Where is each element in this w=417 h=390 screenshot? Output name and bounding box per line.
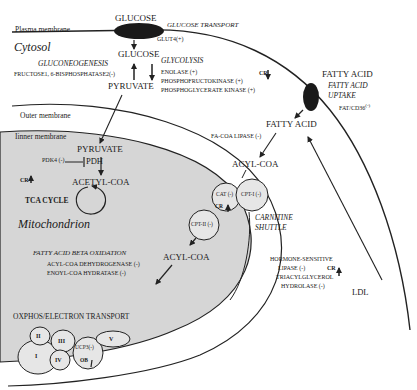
complex-i-label: I — [35, 353, 37, 359]
glycolysis-title: GLYCOLYSIS — [161, 57, 203, 65]
fatty-acid-external: FATTY ACID — [322, 70, 373, 79]
glucose-internal: GLUCOSE — [118, 50, 160, 59]
cr-marker-glycolysis: CR — [259, 70, 268, 76]
lipolysis-line: TRIACYLGLYCEROL — [276, 274, 333, 280]
glycolysis-enzyme: PHOSPHOFRUCTOKINASE (+) — [161, 78, 243, 84]
cat-label: CAT (-) — [216, 192, 233, 198]
complex-iv-label: IV — [55, 357, 62, 363]
beta-oxidation-enzyme: ACYL-COA DEHYDROGENASE (-) — [47, 261, 140, 267]
acyl-coa-mito: ACYL-COA — [163, 253, 210, 262]
lipolysis-line: HYDROLASE (-) — [281, 283, 325, 289]
complex-ii-label: II — [36, 333, 41, 339]
fatty-acid-uptake-title: FATTY ACID — [328, 82, 368, 90]
carnitine-shuttle-title: SHUTTLE — [255, 224, 287, 232]
cpt2-label: CPT-II (-) — [191, 222, 213, 228]
complex-v-label: V — [109, 336, 113, 342]
cytosol-label: Cytosol — [14, 41, 51, 53]
carnitine-shuttle-title: CARNITINE — [255, 214, 293, 222]
glucose-external: GLUCOSE — [115, 14, 157, 23]
gluconeogenesis-title: GLUCONEOGENESIS — [38, 60, 108, 68]
fatty-acid-uptake-title: UPTAKE — [328, 92, 356, 100]
glycolysis-enzyme: PHOSPHOGLYCERATE KINASE (+) — [161, 87, 255, 93]
beta-oxidation-enzyme: ENOYL-COA HYDRATASE (-) — [47, 270, 126, 276]
pdh-label: PDH — [86, 157, 103, 166]
outer-membrane-label: Outer membrane — [20, 112, 71, 120]
fa-coa-lipase-label: FA-COA LIPASE (-) — [211, 133, 261, 139]
fat-cd36-transporter — [303, 83, 319, 111]
tca-cycle-label: TCA CYCLE — [25, 197, 69, 205]
lipolysis-line: LIPASE (-) — [278, 265, 305, 271]
mitochondrion-label: Mitochondrion — [18, 218, 90, 230]
fat-cd36-sign: (-) — [365, 103, 370, 108]
ldl-label: LDL — [352, 288, 369, 297]
acyl-coa-cytosol: ACYL-COA — [232, 160, 279, 169]
oxphos-title: OXPHOS/ELECTRON TRANSPORT — [13, 313, 129, 321]
cr-marker-pdh: CR — [20, 177, 29, 183]
acetyl-coa-label: ACETYL-COA — [72, 178, 130, 187]
glucose-transport-title: GLUCOSE TRANSPORT — [167, 22, 238, 29]
gluconeogenesis-enzyme: FRUCTOSE1, 6-BISPHOSPHATASE2(-) — [14, 71, 115, 77]
cr-marker-cat: CR — [215, 204, 223, 210]
pyruvate-cytosol: PYRUVATE — [108, 82, 154, 91]
glut4-label: GLUT4(+) — [157, 36, 183, 42]
plasma-membrane-label: Plasma membrane — [15, 26, 70, 34]
fatty-acid-internal: FATTY ACID — [266, 120, 317, 129]
cpt1-label: CPT-I (-) — [241, 192, 261, 198]
pyruvate-mito: PYRUVATE — [77, 145, 123, 154]
fat-cd36-label: FAT/CD36(-) — [339, 103, 370, 111]
ob-marker: OB — [80, 358, 88, 364]
complex-iii-label: III — [58, 338, 65, 344]
ucp3-label: UCP3(-) — [75, 345, 94, 351]
fat-cd36-name: FAT/CD36 — [339, 105, 365, 111]
cr-marker-lipase: CR — [327, 265, 336, 271]
inner-membrane-label: Iinner membrane — [15, 133, 66, 141]
glycolysis-enzyme: ENOLASE (+) — [161, 69, 197, 75]
beta-oxidation-title: FATTY ACID BETA OXIDATION — [33, 250, 126, 257]
lipolysis-line: HORMONE-SENSITIVE — [270, 256, 333, 262]
pdk4-label: PDK4 (-) — [42, 157, 65, 163]
